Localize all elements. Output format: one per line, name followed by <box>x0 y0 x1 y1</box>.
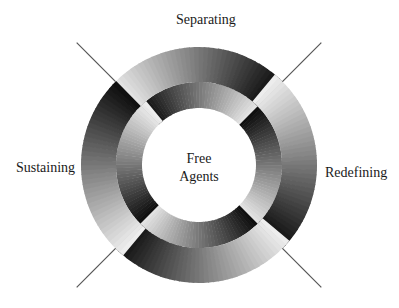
stage-label-sustaining: Sustaining <box>16 160 75 176</box>
leader-line-right <box>282 43 321 82</box>
leader-line-bottom <box>282 248 321 287</box>
center-label-line2: Agents <box>160 168 238 186</box>
stage-label-separating: Separating <box>176 12 236 28</box>
leader-line-top <box>77 43 116 82</box>
stage-label-redefining: Redefining <box>325 165 387 181</box>
center-label-line1: Free <box>160 150 238 168</box>
leader-line-left <box>77 248 116 287</box>
center-label: Free Agents <box>160 150 238 186</box>
